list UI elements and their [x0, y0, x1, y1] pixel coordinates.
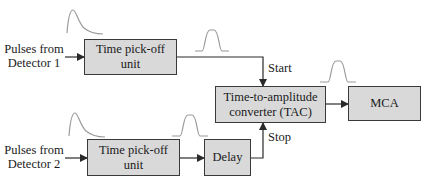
tac-timing-block-diagram: Pulses from Detector 1 Pulses from Detec… — [0, 0, 424, 188]
block-delay-label: Delay — [213, 150, 243, 165]
input-label-detector-2-line2: Detector 2 — [2, 157, 66, 171]
input-label-detector-1-line1: Pulses from — [2, 42, 66, 56]
block-tac-line1: Time-to-amplitude — [224, 90, 318, 105]
block-time-pickoff-unit-2: Time pick-off unit — [87, 139, 180, 176]
decay-pulse-icon-1 — [67, 10, 103, 34]
block-time-pickoff-unit-1-line1: Time pick-off — [96, 42, 165, 57]
block-time-pickoff-unit-2-line1: Time pick-off — [99, 143, 168, 158]
block-delay: Delay — [204, 139, 251, 176]
input-label-detector-1-line2: Detector 1 — [2, 56, 66, 70]
square-pulse-icon-1 — [195, 30, 229, 51]
signal-label-stop: Stop — [268, 130, 291, 144]
decay-pulse-icon-2 — [69, 113, 105, 137]
block-mca-label: MCA — [370, 96, 398, 111]
block-tac-line2: converter (TAC) — [229, 105, 312, 120]
arrow-tpo1-to-tac-start — [177, 57, 263, 86]
arrow-delay-to-tac-stop — [251, 123, 263, 158]
input-label-detector-1: Pulses from Detector 1 — [2, 42, 66, 70]
block-time-pickoff-unit-1: Time pick-off unit — [84, 39, 177, 75]
square-pulse-icon-3 — [320, 61, 356, 82]
block-time-pickoff-unit-2-line2: unit — [124, 158, 143, 173]
block-mca: MCA — [348, 86, 421, 121]
input-label-detector-2: Pulses from Detector 2 — [2, 143, 66, 171]
input-label-detector-2-line1: Pulses from — [2, 143, 66, 157]
block-time-pickoff-unit-1-line2: unit — [121, 57, 140, 72]
signal-label-start: Start — [268, 61, 292, 75]
block-tac: Time-to-amplitude converter (TAC) — [215, 86, 326, 123]
square-pulse-icon-2 — [172, 115, 208, 136]
